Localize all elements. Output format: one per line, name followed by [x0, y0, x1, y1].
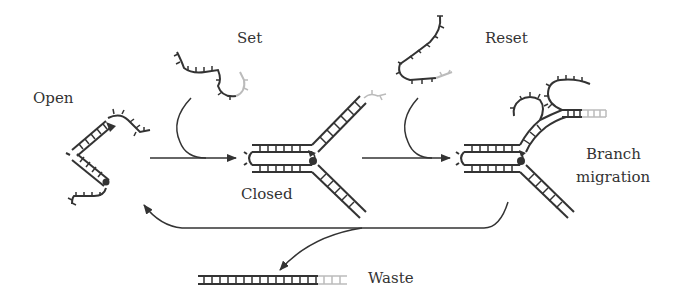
waste-faded-overhang [318, 276, 347, 284]
branch-faded-overhang [582, 110, 606, 117]
label-open: Open [33, 90, 73, 107]
diagram-graphics [0, 0, 681, 305]
label-waste: Waste [368, 270, 414, 287]
reset-strand [396, 16, 452, 84]
label-set: Set [237, 30, 262, 47]
waste-duplex [198, 276, 318, 284]
open-state-structure [66, 109, 150, 205]
set-strand [174, 52, 248, 100]
label-migration: migration [576, 169, 650, 186]
arrow-branch-back-to-open [144, 202, 508, 228]
label-reset: Reset [485, 30, 528, 47]
arrow-to-waste [280, 228, 362, 270]
closed-faded-overhang [364, 90, 386, 100]
label-closed: Closed [241, 186, 292, 203]
dna-tweezers-cycle-diagram: Open Set Closed Reset Branch migration W… [0, 0, 681, 305]
set-input-arrow [177, 98, 206, 158]
reset-input-arrow [405, 98, 432, 158]
label-branch: Branch [586, 146, 641, 163]
branch-migration-structure [456, 75, 590, 218]
